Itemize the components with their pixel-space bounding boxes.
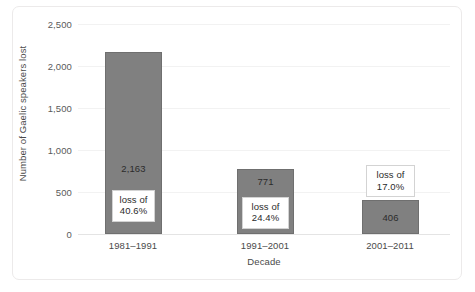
y-axis-tick-labels: 0 500 1,000 1,500 2,000 2,500 — [22, 24, 72, 234]
bar-value-1981-1991: 2,163 — [106, 163, 161, 174]
loss-callout-line1: loss of — [248, 201, 283, 213]
gridline-2500 — [78, 24, 450, 25]
chart-canvas: Number of Gaelic speakers lost 0 500 1,0… — [0, 0, 475, 292]
x-axis-title: Decade — [78, 256, 450, 267]
gridline-zero-axis — [78, 234, 450, 235]
y-tick-label-1000: 1,000 — [26, 145, 72, 156]
bar-value-1991-2001: 771 — [238, 176, 293, 187]
loss-callout-percent: 40.6% — [118, 205, 149, 217]
bar-2001-2011[interactable]: 406 — [362, 200, 419, 234]
plot-area: 2,163 loss of 40.6% 771 loss of 24.4% 40… — [78, 24, 450, 234]
y-tick-label-2500: 2,500 — [26, 19, 72, 30]
loss-callout-line1: loss of — [118, 194, 149, 206]
bar-value-2001-2011: 406 — [363, 212, 418, 223]
x-tick-label-1991-2001: 1991–2001 — [241, 240, 289, 251]
y-tick-label-0: 0 — [26, 229, 72, 240]
bar-1981-1991[interactable]: 2,163 loss of 40.6% — [105, 52, 162, 234]
loss-callout-percent: 17.0% — [372, 181, 409, 193]
loss-callout-1991-2001: loss of 24.4% — [242, 197, 289, 229]
bar-1991-2001[interactable]: 771 loss of 24.4% — [237, 169, 294, 234]
loss-callout-1981-1991: loss of 40.6% — [112, 190, 155, 222]
x-tick-label-1981-1991: 1981–1991 — [109, 240, 157, 251]
loss-callout-line1: loss of — [372, 169, 409, 181]
y-tick-label-1500: 1,500 — [26, 103, 72, 114]
loss-callout-percent: 24.4% — [248, 212, 283, 224]
y-tick-label-500: 500 — [26, 187, 72, 198]
loss-callout-2001-2011: loss of 17.0% — [366, 165, 415, 197]
y-tick-label-2000: 2,000 — [26, 61, 72, 72]
x-tick-label-2001-2011: 2001–2011 — [366, 240, 414, 251]
